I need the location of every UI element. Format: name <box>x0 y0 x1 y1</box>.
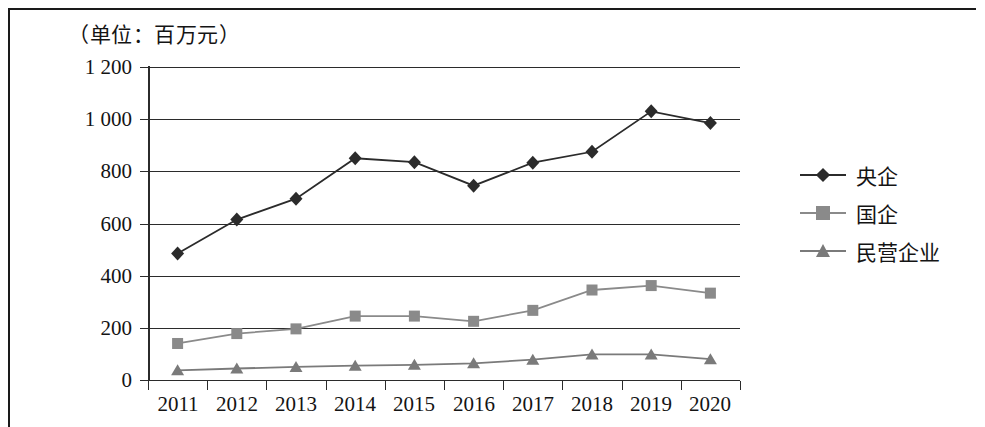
y-axis-tick-label: 0 <box>0 368 132 393</box>
legend-label: 国企 <box>856 198 898 228</box>
x-axis-tick <box>562 381 563 390</box>
data-point-marker <box>704 353 717 364</box>
legend-marker-triangle-icon <box>816 244 830 257</box>
legend-key <box>800 203 846 223</box>
x-axis-tick <box>148 381 149 390</box>
x-axis-tick <box>326 381 327 390</box>
x-axis-tick <box>444 381 445 390</box>
gridline <box>148 67 740 68</box>
series-triangle <box>171 348 717 375</box>
data-point-marker <box>290 192 303 206</box>
data-point-marker <box>586 145 599 159</box>
gridline <box>148 224 740 225</box>
x-axis-tick <box>681 381 682 390</box>
legend-label: 民营企业 <box>856 236 940 266</box>
chart-legend: 央企国企民营企业 <box>800 156 975 270</box>
x-axis-tick <box>622 381 623 390</box>
data-point-marker <box>171 246 184 260</box>
y-axis-tick <box>140 276 149 277</box>
data-point-marker <box>645 348 658 359</box>
data-point-marker <box>290 361 303 372</box>
y-axis-tick <box>140 224 149 225</box>
data-point-marker <box>527 305 538 316</box>
x-axis-tick-label: 2019 <box>630 392 672 417</box>
data-point-marker <box>468 316 479 327</box>
legend-key <box>800 165 846 185</box>
data-point-marker <box>408 359 421 370</box>
data-point-marker <box>171 364 184 375</box>
x-axis-tick <box>385 381 386 390</box>
y-axis-tick-label: 400 <box>0 264 132 289</box>
series-line <box>178 354 711 370</box>
data-point-marker <box>408 155 421 169</box>
page-border-top <box>8 8 976 10</box>
x-axis-tick <box>503 381 504 390</box>
data-point-marker <box>230 363 243 374</box>
data-point-marker <box>705 288 716 299</box>
gridline <box>148 171 740 172</box>
series-line <box>178 286 711 344</box>
y-axis-tick-label: 600 <box>0 212 132 237</box>
series-square <box>172 280 716 349</box>
x-axis-tick <box>266 381 267 390</box>
legend-marker-diamond-icon <box>816 168 830 182</box>
data-point-marker <box>409 311 420 322</box>
x-axis-tick-label: 2018 <box>571 392 613 417</box>
data-point-marker <box>467 357 480 368</box>
legend-key <box>800 241 846 261</box>
x-axis-tick-label: 2020 <box>689 392 731 417</box>
series-line <box>178 111 711 253</box>
data-point-marker <box>586 348 599 359</box>
y-axis-tick-label: 800 <box>0 159 132 184</box>
legend-label: 央企 <box>856 160 898 190</box>
x-axis-tick <box>207 381 208 390</box>
y-axis-tick <box>140 171 149 172</box>
series-diamond <box>171 104 717 260</box>
y-axis-tick-label: 1 000 <box>0 107 132 132</box>
gridline <box>148 276 740 277</box>
gridline <box>148 119 740 120</box>
x-axis-tick <box>740 381 741 390</box>
gridline <box>148 328 740 329</box>
y-axis-tick <box>140 119 149 120</box>
y-axis-tick <box>140 67 149 68</box>
x-axis-tick-label: 2015 <box>393 392 435 417</box>
y-axis-tick <box>140 328 149 329</box>
legend-item[interactable]: 央企 <box>800 156 975 194</box>
legend-item[interactable]: 国企 <box>800 194 975 232</box>
data-point-marker <box>526 156 539 170</box>
x-axis-tick-label: 2017 <box>512 392 554 417</box>
data-point-marker <box>526 354 539 365</box>
x-axis-tick-label: 2014 <box>334 392 376 417</box>
unit-caption: （单位：百万元） <box>68 18 240 48</box>
data-point-marker <box>467 179 480 193</box>
legend-item[interactable]: 民营企业 <box>800 232 975 270</box>
x-axis-tick-label: 2016 <box>453 392 495 417</box>
data-point-marker <box>172 338 183 349</box>
data-point-marker <box>587 285 598 296</box>
data-point-marker <box>350 311 361 322</box>
y-axis-tick-label: 200 <box>0 316 132 341</box>
chart-page: （单位：百万元） 02004006008001 0001 200 2011201… <box>0 0 985 427</box>
data-point-marker <box>231 328 242 339</box>
data-point-marker <box>349 151 362 165</box>
data-point-marker <box>645 104 658 118</box>
x-axis-tick-label: 2013 <box>275 392 317 417</box>
x-axis-tick-label: 2012 <box>216 392 258 417</box>
y-axis-tick-label: 1 200 <box>0 55 132 80</box>
x-axis-tick-label: 2011 <box>157 392 198 417</box>
data-point-marker <box>646 280 657 291</box>
legend-marker-square-icon <box>816 206 830 220</box>
data-point-marker <box>349 360 362 371</box>
